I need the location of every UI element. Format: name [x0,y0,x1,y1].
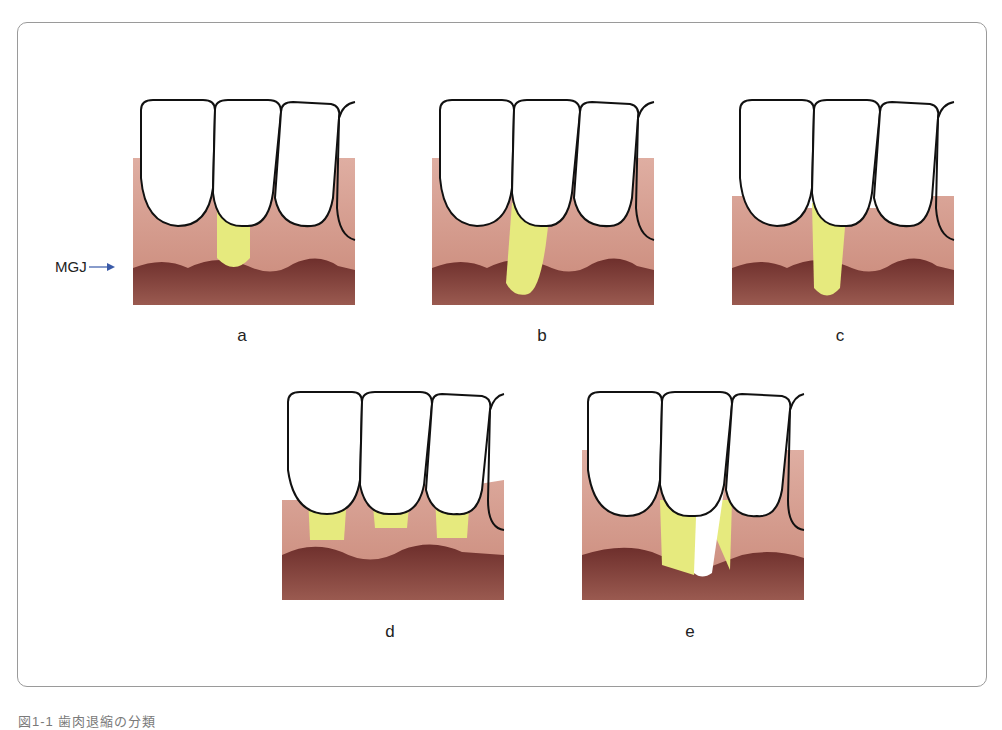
figure-caption: 図1-1 歯肉退縮の分類 [18,711,156,730]
tooth-illustration-d [282,390,507,600]
mgj-indicator: MGJ [55,258,115,275]
tooth-illustration-c [732,98,957,305]
mgj-label: MGJ [55,258,87,275]
panel-c [732,98,957,305]
panel-b [432,98,657,305]
panel-e [582,390,807,600]
panel-label-a: a [222,326,262,346]
tooth-illustration-e [582,390,807,600]
panel-a [133,98,358,305]
panel-label-b: b [522,326,562,346]
panel-label-d: d [370,622,410,642]
panel-label-c: c [820,326,860,346]
panel-d [282,390,507,600]
tooth-illustration-b [432,98,657,305]
arrow-right-icon [89,262,115,272]
tooth-illustration-a [133,98,358,305]
panel-label-e: e [670,622,710,642]
